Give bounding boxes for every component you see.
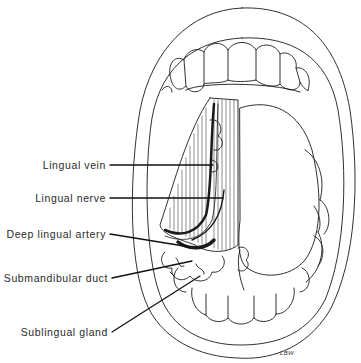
- artist-signature: LBW: [280, 350, 294, 356]
- label-lingual-vein: Lingual vein: [43, 159, 106, 171]
- sublingual-gland-lobules: [161, 247, 248, 281]
- dissection-region: [160, 98, 238, 251]
- label-lingual-nerve: Lingual nerve: [35, 192, 106, 204]
- mouth-anatomy-illustration: [0, 0, 361, 363]
- leader-sublingual-gland: [112, 276, 200, 332]
- tongue-outline: [239, 105, 319, 276]
- label-sublingual-gland: Sublingual gland: [21, 326, 108, 338]
- label-submandibular-duct: Submandibular duct: [4, 272, 108, 284]
- label-deep-lingual-artery: Deep lingual artery: [6, 228, 106, 240]
